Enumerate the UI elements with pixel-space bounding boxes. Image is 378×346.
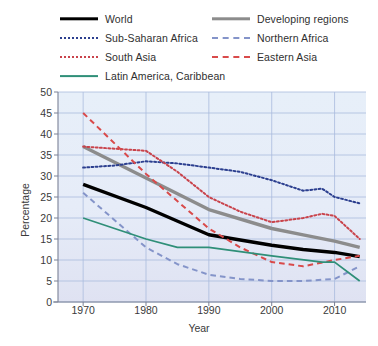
x-axis-label: Year <box>0 322 378 334</box>
legend-item-world[interactable]: World <box>60 10 225 28</box>
legend-label-lac: Latin America, Caribbean <box>105 70 225 82</box>
legend-item-sa[interactable]: South Asia <box>60 48 225 66</box>
legend-label-developing: Developing regions <box>257 13 349 25</box>
x-tick-label: 2000 <box>260 304 283 316</box>
x-tick-label: 2010 <box>323 304 346 316</box>
x-tick-label: 1980 <box>134 304 157 316</box>
legend-label-sa: South Asia <box>105 51 156 63</box>
legend-column-left: WorldSub-Saharan AfricaSouth AsiaLatin A… <box>60 10 225 86</box>
x-axis-label-text: Year <box>188 322 209 334</box>
x-tick-label: 1970 <box>71 304 94 316</box>
legend-label-ea: Eastern Asia <box>257 51 317 63</box>
legend-swatch-world-icon <box>60 13 98 25</box>
legend-item-na[interactable]: Northern Africa <box>212 29 349 47</box>
x-tick-label: 1990 <box>197 304 220 316</box>
legend-item-developing[interactable]: Developing regions <box>212 10 349 28</box>
legend-item-ea[interactable]: Eastern Asia <box>212 48 349 66</box>
chart-figure: WorldSub-Saharan AfricaSouth AsiaLatin A… <box>0 0 378 346</box>
legend-swatch-na-icon <box>212 32 250 44</box>
legend-swatch-sa-icon <box>60 51 98 63</box>
legend-swatch-ssa-icon <box>60 32 98 44</box>
legend-swatch-ea-icon <box>212 51 250 63</box>
legend-label-world: World <box>105 13 133 25</box>
x-axis-ticks: 19701980199020002010 <box>0 304 378 322</box>
legend-item-ssa[interactable]: Sub-Saharan Africa <box>60 29 225 47</box>
legend-swatch-lac-icon <box>60 70 98 82</box>
chart-legend: WorldSub-Saharan AfricaSouth AsiaLatin A… <box>0 0 378 88</box>
legend-item-lac[interactable]: Latin America, Caribbean <box>60 67 225 85</box>
legend-label-na: Northern Africa <box>257 32 329 44</box>
plot-area-wrapper: Percentage 05101520253035404550 19701980… <box>0 86 378 346</box>
legend-swatch-developing-icon <box>212 13 250 25</box>
legend-label-ssa: Sub-Saharan Africa <box>105 32 198 44</box>
legend-column-right: Developing regionsNorthern AfricaEastern… <box>212 10 349 67</box>
